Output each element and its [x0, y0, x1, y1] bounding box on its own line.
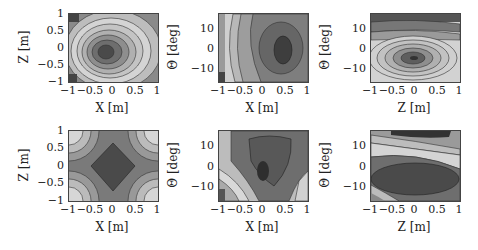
- xtick: 0: [259, 204, 266, 215]
- contour-fill: [219, 131, 308, 201]
- xtick: −0.5: [77, 85, 104, 96]
- contour-plot-xz-top: [68, 13, 159, 83]
- contour-fill: [219, 14, 308, 82]
- y-axis-label: Θ [deg]: [318, 24, 332, 69]
- xtick: −1: [362, 85, 378, 96]
- ytick: −10: [338, 181, 366, 192]
- xtick: 0: [109, 204, 116, 215]
- contour-fill: [371, 14, 460, 82]
- xtick: 0: [109, 85, 116, 96]
- contour-plot-xtheta-top: [218, 13, 309, 83]
- ytick: 0: [36, 42, 64, 53]
- x-axis-label: Z [m]: [398, 101, 431, 115]
- xtick: −0.5: [379, 204, 406, 215]
- xtick: 1: [304, 204, 311, 215]
- ytick: 0: [338, 43, 366, 54]
- contour-plot-xz-bottom: [68, 130, 159, 202]
- ytick: 0: [186, 161, 214, 172]
- y-axis-label: Z [m]: [17, 149, 31, 182]
- ytick: 0: [338, 161, 366, 172]
- contour-fill: [371, 131, 460, 201]
- contour-plot-xtheta-bottom: [218, 130, 309, 202]
- ytick: 0.5: [36, 25, 64, 36]
- ytick: 10: [186, 23, 214, 34]
- x-axis-label: X [m]: [245, 220, 278, 234]
- xtick: −0.5: [227, 85, 254, 96]
- xtick: 0.5: [276, 204, 294, 215]
- ytick: −10: [338, 63, 366, 74]
- xtick: 0: [259, 85, 266, 96]
- y-axis-label: Θ [deg]: [166, 142, 180, 187]
- x-axis-label: X [m]: [245, 101, 278, 115]
- xtick: −1: [362, 204, 378, 215]
- ytick: 10: [338, 23, 366, 34]
- ytick: 10: [338, 140, 366, 151]
- ytick: 0: [36, 160, 64, 171]
- xtick: −0.5: [227, 204, 254, 215]
- xtick: 0.5: [126, 85, 144, 96]
- ytick: 1: [36, 8, 64, 19]
- ytick: 0.5: [36, 142, 64, 153]
- xtick: −0.5: [77, 204, 104, 215]
- contour-plot-ztheta-top: [370, 13, 461, 83]
- ytick: −10: [186, 63, 214, 74]
- xtick: 1: [456, 85, 463, 96]
- xtick: 0.5: [126, 204, 144, 215]
- x-axis-label: X [m]: [95, 101, 128, 115]
- xtick: 0.5: [428, 85, 446, 96]
- xtick: 0.5: [428, 204, 446, 215]
- contour-fill: [69, 131, 158, 201]
- ytick: −0.5: [36, 177, 64, 188]
- y-axis-label: Θ [deg]: [318, 142, 332, 187]
- xtick: 0.5: [276, 85, 294, 96]
- contour-plot-ztheta-bottom: [370, 130, 461, 202]
- xtick: 1: [154, 85, 161, 96]
- xtick: 0: [411, 204, 418, 215]
- y-axis-label: Θ [deg]: [166, 24, 180, 69]
- xtick: 1: [154, 204, 161, 215]
- ytick: −0.5: [36, 59, 64, 70]
- x-axis-label: Z [m]: [398, 220, 431, 234]
- ytick: 10: [186, 140, 214, 151]
- ytick: 1: [36, 125, 64, 136]
- xtick: 1: [456, 204, 463, 215]
- xtick: −1: [60, 204, 76, 215]
- ytick: −10: [186, 181, 214, 192]
- contour-fill: [69, 14, 158, 82]
- xtick: 1: [304, 85, 311, 96]
- y-axis-label: Z [m]: [17, 31, 31, 64]
- x-axis-label: X [m]: [95, 220, 128, 234]
- xtick: −1: [60, 85, 76, 96]
- xtick: −1: [210, 204, 226, 215]
- xtick: 0: [411, 85, 418, 96]
- xtick: −0.5: [379, 85, 406, 96]
- xtick: −1: [210, 85, 226, 96]
- ytick: 0: [186, 43, 214, 54]
